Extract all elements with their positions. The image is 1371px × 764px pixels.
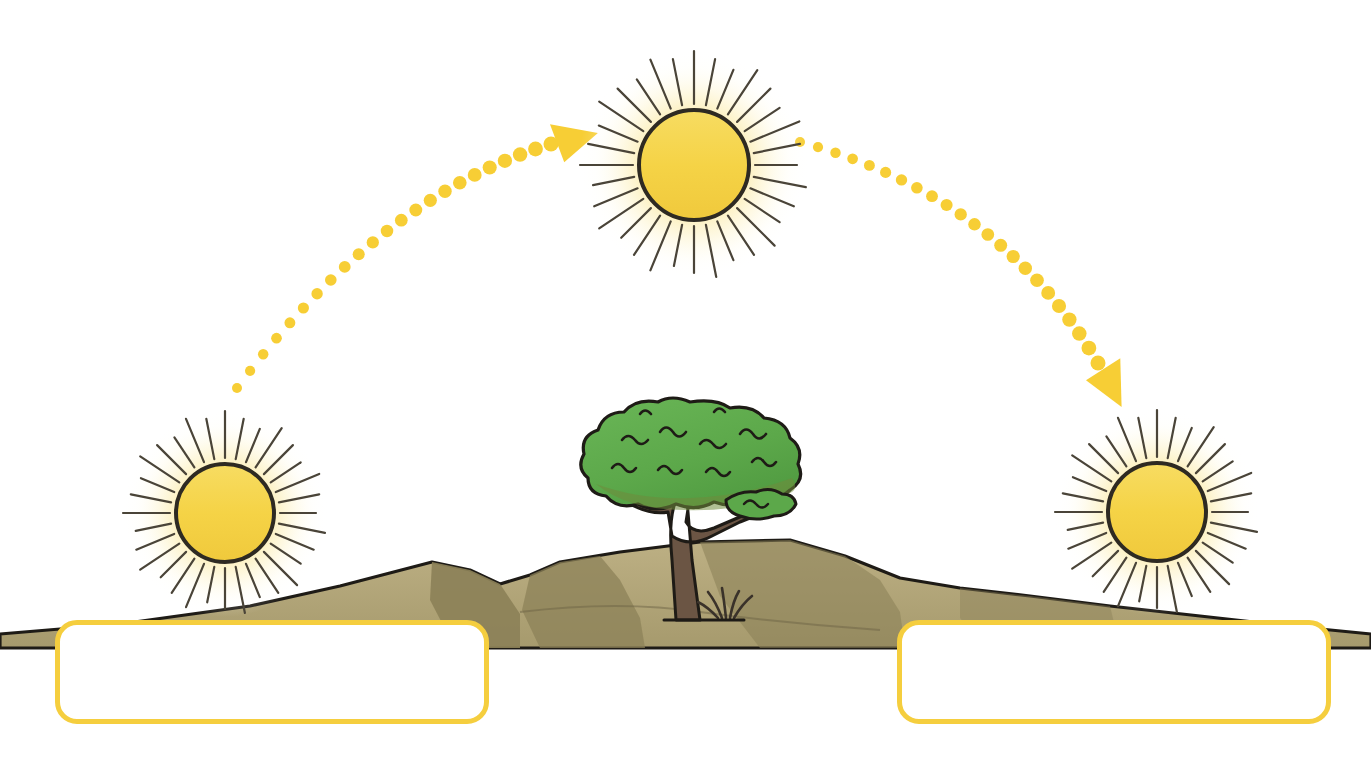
arrow-dot <box>483 160 497 174</box>
sun-disc <box>1108 463 1206 561</box>
arrow-dot <box>1030 273 1044 287</box>
answer-box-left[interactable] <box>55 620 489 724</box>
arrow-dot <box>864 160 875 171</box>
arrow-dot <box>994 239 1007 252</box>
arrow-dot <box>941 199 953 211</box>
tree-side-canopy <box>726 489 796 519</box>
arrow-dot <box>968 218 981 231</box>
arrow-dot <box>453 176 467 190</box>
arrow-dot <box>847 153 858 164</box>
arrow-dot <box>353 248 365 260</box>
arrow-dot <box>1062 312 1076 326</box>
sunset-sun <box>1053 408 1261 616</box>
arrow-dot <box>409 204 422 217</box>
sun-disc <box>639 110 749 220</box>
arrow-dot <box>911 182 923 194</box>
arrow-dot <box>1019 262 1032 275</box>
arrow-dot <box>1007 250 1020 263</box>
sun-disc <box>176 464 274 562</box>
arrow-dot <box>245 366 255 376</box>
arrow-dot <box>926 190 938 202</box>
arrow-dot <box>1072 326 1087 341</box>
arrow-dot <box>498 154 512 168</box>
arrow-dot <box>395 214 408 227</box>
arrow-dot <box>880 167 891 178</box>
noon-sun <box>578 49 810 281</box>
arrow-dot <box>284 317 295 328</box>
arrow-dot <box>298 302 309 313</box>
diagram-canvas <box>0 0 1371 764</box>
sunrise-sun <box>121 409 329 617</box>
arrow-dot <box>813 142 823 152</box>
noon-to-sunset-arrow <box>795 137 1139 416</box>
arrow-dot <box>271 333 282 344</box>
arrow-dot <box>258 349 268 359</box>
arrow-dot <box>424 194 437 207</box>
arrow-dot <box>232 383 242 393</box>
arrow-dot <box>381 225 394 238</box>
arrow-dot <box>325 274 337 286</box>
arrow-dot <box>1041 286 1055 300</box>
arrow-dot <box>468 168 482 182</box>
arrow-dot <box>830 148 840 158</box>
arrow-dot <box>896 174 907 185</box>
arrow-dot <box>438 185 451 198</box>
arrow-dot <box>1091 356 1106 371</box>
arrow-dot <box>339 261 351 273</box>
arrow-dot <box>528 142 543 157</box>
answer-box-right[interactable] <box>897 620 1331 724</box>
arrow-dot <box>367 236 379 248</box>
arrow-dot <box>1052 299 1066 313</box>
sunrise-to-noon-arrow <box>232 115 602 393</box>
arrow-dot <box>981 228 994 241</box>
arrow-dot <box>955 208 967 220</box>
arrow-dot <box>311 288 322 299</box>
arrow-dot <box>513 147 528 162</box>
arrow-dot <box>1082 341 1097 356</box>
